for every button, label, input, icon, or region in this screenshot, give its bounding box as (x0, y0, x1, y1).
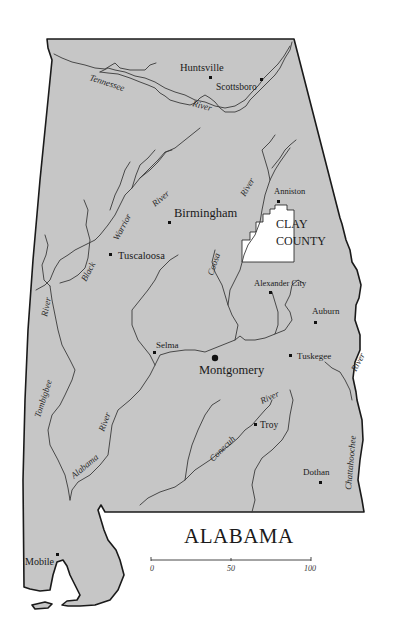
alabama-map: Tennessee River Black Warrior River Coos… (0, 0, 395, 641)
city-dot-anniston (277, 200, 280, 203)
city-label-tuskegee: Tuskegee (297, 351, 331, 361)
city-dot-huntsville (209, 76, 212, 79)
city-label-tuscaloosa: Tuscaloosa (118, 250, 165, 261)
city-dot-mobile (56, 553, 59, 556)
scale-tick-50: 50 (227, 564, 235, 573)
scale-tick-0: 0 (150, 564, 154, 573)
city-dot-troy (254, 423, 257, 426)
city-label-auburn: Auburn (312, 306, 340, 316)
city-dot-scottsboro (260, 78, 263, 81)
map-title: ALABAMA (184, 524, 294, 548)
city-dot-tuscaloosa (109, 253, 112, 256)
city-label-montgomery: Montgomery (199, 363, 265, 377)
city-dot-tuskegee (289, 354, 292, 357)
scale-tick-100: 100 (304, 564, 316, 573)
state-outline (23, 39, 364, 606)
city-label-huntsville: Huntsville (180, 62, 224, 73)
city-label-selma: Selma (156, 340, 179, 350)
scale-bar: 0 50 100 (150, 557, 316, 573)
city-label-dothan: Dothan (303, 467, 330, 477)
city-dot-auburn (314, 321, 317, 324)
city-label-mobile: Mobile (25, 556, 54, 567)
city-label-alexander-city: Alexander City (254, 278, 307, 288)
clay-county-label-line2: COUNTY (276, 234, 326, 248)
dauphin-island (32, 602, 52, 609)
city-dot-birmingham (168, 221, 171, 224)
city-dot-selma (153, 351, 156, 354)
city-label-scottsboro: Scottsboro (216, 82, 257, 92)
city-dot-alexander-city (269, 291, 272, 294)
city-label-anniston: Anniston (274, 186, 306, 196)
city-dot-dothan (319, 481, 322, 484)
city-dot-montgomery (212, 355, 218, 361)
city-label-troy: Troy (260, 420, 278, 430)
city-label-birmingham: Birmingham (174, 206, 237, 220)
clay-county-label-line1: CLAY (276, 217, 308, 231)
